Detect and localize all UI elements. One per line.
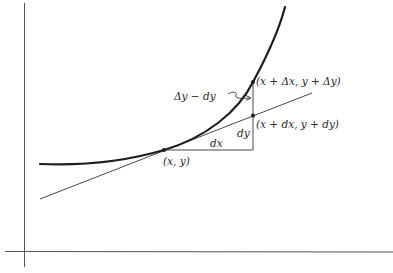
point-d: [251, 114, 255, 118]
label-dy: dy: [237, 128, 250, 139]
label-point-delta: (x + Δx, y + Δy): [256, 76, 341, 87]
label-difference: Δy − dy: [174, 91, 216, 102]
curve: [40, 7, 285, 164]
point-xy: [162, 148, 166, 152]
label-dx: dx: [210, 138, 223, 149]
label-point-xy: (x, y): [163, 156, 190, 167]
diagram-canvas: [0, 0, 393, 273]
label-point-d: (x + dx, y + dy): [256, 119, 339, 130]
x-axis: [5, 252, 393, 253]
point-delta: [251, 80, 255, 84]
